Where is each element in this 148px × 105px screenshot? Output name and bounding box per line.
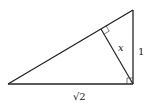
label-sqrt2: √2 xyxy=(73,91,86,102)
altitude xyxy=(101,29,133,84)
label-1: 1 xyxy=(138,46,144,57)
hypotenuse xyxy=(8,10,133,84)
label-x: x xyxy=(118,42,124,53)
triangle-diagram: x 1 √2 xyxy=(0,0,148,105)
